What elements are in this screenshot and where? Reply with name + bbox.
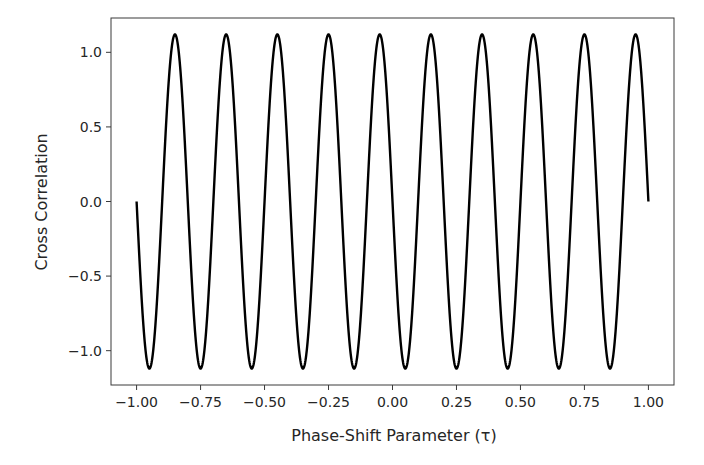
y-tick-label: −1.0 xyxy=(68,343,102,359)
line-chart: −1.00−0.75−0.50−0.250.000.250.500.751.00… xyxy=(0,0,704,465)
y-tick-label: 0.0 xyxy=(80,194,102,210)
y-tick-label: 1.0 xyxy=(80,44,102,60)
x-tick-label: −1.00 xyxy=(115,394,158,410)
x-axis: −1.00−0.75−0.50−0.250.000.250.500.751.00 xyxy=(115,385,664,410)
y-axis-label: Cross Correlation xyxy=(32,133,51,270)
x-tick-label: 0.00 xyxy=(377,394,408,410)
x-tick-label: −0.75 xyxy=(179,394,222,410)
plot-area xyxy=(111,18,674,385)
x-tick-label: 0.50 xyxy=(505,394,536,410)
x-tick-label: 0.75 xyxy=(569,394,600,410)
x-tick-label: 1.00 xyxy=(633,394,664,410)
x-tick-label: 0.25 xyxy=(441,394,472,410)
y-axis: −1.0−0.50.00.51.0 xyxy=(68,44,111,358)
y-tick-label: −0.5 xyxy=(68,268,102,284)
x-axis-label: Phase-Shift Parameter (τ) xyxy=(291,426,496,445)
x-tick-label: −0.50 xyxy=(243,394,286,410)
x-tick-label: −0.25 xyxy=(307,394,350,410)
y-tick-label: 0.5 xyxy=(80,119,102,135)
